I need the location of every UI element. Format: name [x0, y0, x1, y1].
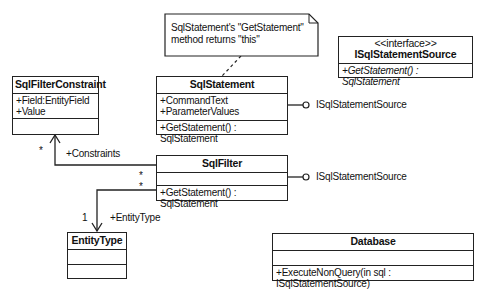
interface-isql-statement-source[interactable]: <<interface>> ISqlStatementSource +GetSt…: [338, 36, 473, 78]
class-name: SqlStatement: [157, 77, 287, 93]
attribute: +Value: [16, 106, 95, 117]
note-line-2: method returns "this": [171, 34, 304, 46]
comment-note: SqlStatement's "GetStatement" method ret…: [171, 22, 304, 46]
attributes-compartment: [273, 250, 473, 265]
constraints-role-label: +Constraints: [66, 148, 120, 159]
class-sql-statement[interactable]: SqlStatement +CommandText +ParameterValu…: [156, 76, 288, 135]
methods-compartment: +GetStatement() : SqlStatement: [157, 185, 287, 200]
class-name: EntityType: [68, 233, 126, 249]
note-line-1: SqlStatement's "GetStatement": [171, 22, 304, 34]
attributes-compartment: [157, 172, 287, 185]
constraints-target-multiplicity: *: [39, 145, 43, 156]
attribute: +Field:EntityField: [16, 95, 95, 106]
class-name: Database: [273, 234, 473, 250]
class-sql-filter-constraint[interactable]: SqlFilterConstraint +Field:EntityField +…: [12, 76, 99, 135]
sql-statement-interface-label: ISqlStatementSource: [316, 99, 407, 110]
method: +GetStatement() : SqlStatement: [342, 65, 469, 87]
attribute: +ParameterValues: [160, 106, 284, 117]
method: +GetStatement() : SqlStatement: [160, 122, 284, 144]
constraints-source-multiplicity: *: [139, 170, 143, 181]
method: +ExecuteNonQuery(in sql : ISqlStatementS…: [276, 267, 470, 289]
class-database[interactable]: Database +ExecuteNonQuery(in sql : ISqlS…: [272, 233, 474, 281]
entity-type-source-multiplicity: *: [139, 181, 143, 192]
class-name: SqlFilterConstraint: [13, 77, 98, 93]
attributes-compartment: +Field:EntityField +Value: [13, 93, 98, 118]
methods-compartment: [68, 264, 126, 278]
methods-compartment: +ExecuteNonQuery(in sql : ISqlStatementS…: [273, 265, 473, 280]
class-sql-filter[interactable]: SqlFilter +GetStatement() : SqlStatement: [156, 155, 288, 201]
method: +GetStatement() : SqlStatement: [160, 187, 284, 209]
class-entity-type[interactable]: EntityType: [67, 232, 127, 279]
interface-name: ISqlStatementSource: [355, 48, 457, 60]
methods-compartment: [13, 118, 98, 134]
note-anchor-line: [222, 56, 241, 76]
interface-header: <<interface>> ISqlStatementSource: [339, 37, 472, 63]
sql-filter-interface-label: ISqlStatementSource: [316, 171, 407, 182]
entity-type-association-line: [97, 190, 156, 231]
methods-compartment: +GetStatement() : SqlStatement: [157, 120, 287, 134]
methods-compartment: +GetStatement() : SqlStatement: [339, 63, 472, 77]
sql-filter-interface-lollipop: [303, 174, 309, 180]
attributes-compartment: +CommandText +ParameterValues: [157, 93, 287, 120]
attribute: +CommandText: [160, 95, 284, 106]
entity-type-role-label: +EntityType: [110, 212, 160, 223]
class-name: SqlFilter: [157, 156, 287, 172]
entity-type-target-multiplicity: 1: [82, 212, 87, 223]
attributes-compartment: [68, 249, 126, 264]
sql-statement-interface-lollipop: [303, 102, 309, 108]
